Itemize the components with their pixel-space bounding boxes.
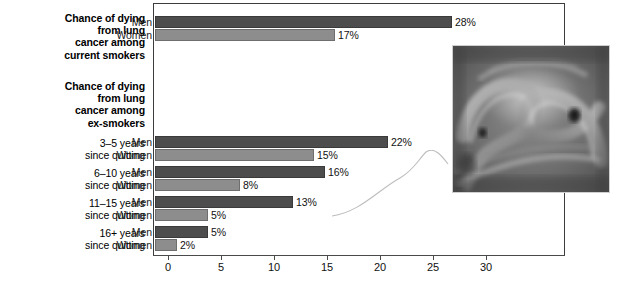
- series-label-men-current: Men: [106, 17, 152, 28]
- bar-value-men-11-15: 13%: [296, 196, 317, 208]
- series-label-men-16plus: Men: [106, 227, 152, 238]
- bar-value-men-3-5: 22%: [391, 136, 412, 148]
- series-label-women-6-10: Women: [106, 180, 152, 191]
- bar-men-6-10[interactable]: [155, 166, 325, 178]
- xtick-label-25: 25: [421, 261, 445, 273]
- bar-value-women-6-10: 8%: [243, 179, 258, 191]
- bar-men-11-15[interactable]: [155, 196, 293, 208]
- series-label-men-11-15: Men: [106, 197, 152, 208]
- series-label-men-6-10: Men: [106, 167, 152, 178]
- xtick-mark-30: [486, 255, 487, 260]
- xtick-label-30: 30: [474, 261, 498, 273]
- bar-women-6-10[interactable]: [155, 179, 240, 191]
- series-label-women-16plus: Women: [106, 240, 152, 251]
- chest-xray-photo: [452, 45, 610, 193]
- value-axis-line: [153, 255, 565, 256]
- series-label-women-current: Women: [106, 30, 152, 41]
- xtick-mark-10: [274, 255, 275, 260]
- xtick-label-15: 15: [315, 261, 339, 273]
- bar-chart: Chance of dying from lung cancer among c…: [0, 0, 638, 284]
- bar-value-women-11-15: 5%: [211, 209, 226, 221]
- xtick-mark-5: [221, 255, 222, 260]
- bar-women-16plus[interactable]: [155, 239, 177, 251]
- xtick-label-0: 0: [156, 261, 180, 273]
- bar-value-women-current: 17%: [338, 29, 359, 41]
- chest-xray-image: [453, 46, 609, 192]
- bar-value-women-16plus: 2%: [180, 239, 195, 251]
- xtick-mark-15: [327, 255, 328, 260]
- bar-women-11-15[interactable]: [155, 209, 208, 221]
- xtick-label-10: 10: [262, 261, 286, 273]
- xtick-mark-25: [433, 255, 434, 260]
- bar-value-women-3-5: 15%: [317, 149, 338, 161]
- bar-men-16plus[interactable]: [155, 226, 208, 238]
- series-label-women-11-15: Women: [106, 210, 152, 221]
- xtick-mark-20: [380, 255, 381, 260]
- series-label-men-3-5: Men: [106, 137, 152, 148]
- bar-men-3-5[interactable]: [155, 136, 388, 148]
- bar-men-current[interactable]: [155, 16, 452, 28]
- bar-women-3-5[interactable]: [155, 149, 314, 161]
- xtick-label-20: 20: [368, 261, 392, 273]
- xtick-label-5: 5: [209, 261, 233, 273]
- bar-value-men-current: 28%: [455, 16, 476, 28]
- bar-value-men-16plus: 5%: [211, 226, 226, 238]
- bar-women-current[interactable]: [155, 29, 335, 41]
- xtick-mark-0: [168, 255, 169, 260]
- series-label-women-3-5: Women: [106, 150, 152, 161]
- bar-value-men-6-10: 16%: [328, 166, 349, 178]
